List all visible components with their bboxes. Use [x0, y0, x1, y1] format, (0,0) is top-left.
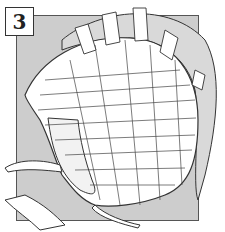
step-number: 3	[13, 10, 27, 34]
step-number-badge: 3	[5, 7, 34, 36]
